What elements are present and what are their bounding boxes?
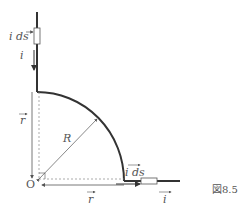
figure-caption: 図8.5 xyxy=(212,184,238,195)
label-i-bottom: i xyxy=(163,193,167,206)
label-r-vertical: r xyxy=(20,114,26,127)
label-R: R xyxy=(62,132,71,145)
label-r-horizontal: r xyxy=(88,193,94,206)
figure-diagram: i ds i r R O i ds r i 図8.5 xyxy=(0,0,251,213)
label-ids-bottom: i ds xyxy=(125,166,145,179)
radius-arrow xyxy=(39,119,97,179)
label-i-top: i xyxy=(20,49,24,62)
label-origin-O: O xyxy=(26,178,35,191)
label-ids-top: i ds xyxy=(9,30,29,43)
current-element-top xyxy=(34,28,40,44)
